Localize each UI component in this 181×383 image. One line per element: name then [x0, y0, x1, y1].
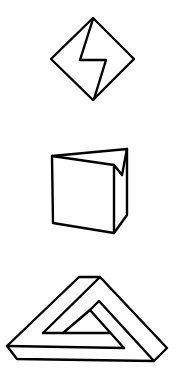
impossible-triangle-icon: [7, 277, 167, 361]
figures-svg: [0, 0, 181, 383]
folded-cube-icon: [52, 149, 127, 233]
figure-canvas: Diamond with zigzag bolt Cube with folde…: [0, 0, 181, 383]
diamond-lightning-icon: [51, 18, 134, 100]
